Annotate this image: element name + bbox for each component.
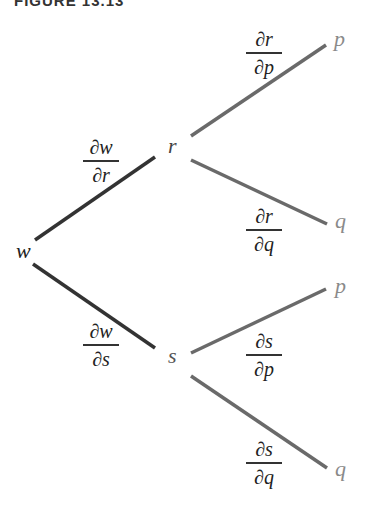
- label-dr-dq: ∂r ∂q: [242, 205, 286, 255]
- denominator: ∂r: [79, 164, 123, 186]
- node-r-p: p: [334, 26, 345, 52]
- node-s-p: p: [335, 273, 346, 299]
- numerator: ∂w: [79, 136, 123, 158]
- label-dw-dr: ∂w ∂r: [79, 136, 123, 186]
- label-ds-dq: ∂s ∂q: [242, 438, 286, 488]
- fraction-bar: [246, 52, 282, 54]
- label-ds-dp: ∂s ∂p: [242, 330, 286, 380]
- numerator: ∂w: [79, 320, 123, 342]
- denominator: ∂p: [242, 56, 286, 78]
- node-w: w: [16, 238, 31, 264]
- label-dr-dp: ∂r ∂p: [242, 28, 286, 78]
- fraction-bar: [246, 462, 282, 464]
- numerator: ∂r: [242, 205, 286, 227]
- numerator: ∂s: [242, 438, 286, 460]
- denominator: ∂p: [242, 358, 286, 380]
- label-dw-ds: ∂w ∂s: [79, 320, 123, 370]
- node-r: r: [168, 133, 177, 159]
- denominator: ∂q: [242, 466, 286, 488]
- fraction-bar: [246, 354, 282, 356]
- tree-diagram: [0, 0, 378, 510]
- node-r-q: q: [335, 208, 346, 234]
- fraction-bar: [83, 344, 119, 346]
- numerator: ∂s: [242, 330, 286, 352]
- fraction-bar: [246, 229, 282, 231]
- denominator: ∂q: [242, 233, 286, 255]
- numerator: ∂r: [242, 28, 286, 50]
- denominator: ∂s: [79, 348, 123, 370]
- node-s: s: [168, 343, 177, 369]
- fraction-bar: [83, 160, 119, 162]
- node-s-q: q: [335, 456, 346, 482]
